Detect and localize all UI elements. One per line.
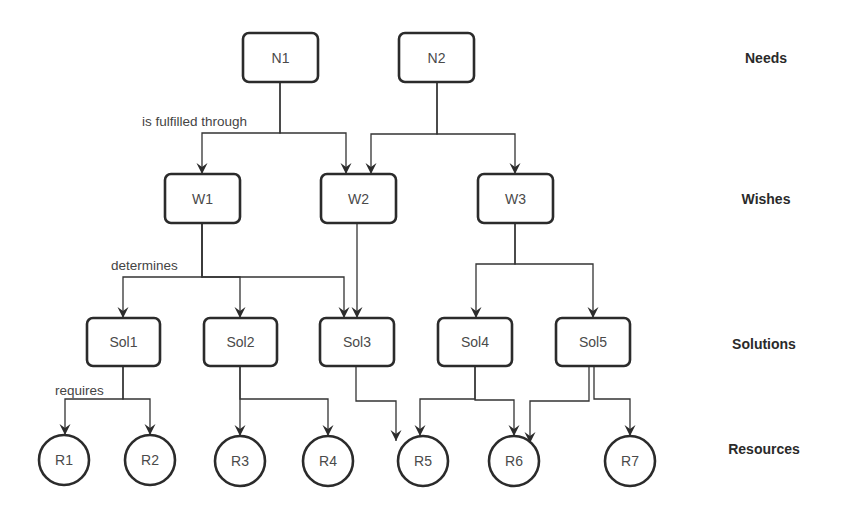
node-label: Sol1 xyxy=(109,334,137,350)
node-label: R7 xyxy=(621,453,639,469)
node-label: Sol2 xyxy=(226,334,254,350)
node-label: Sol5 xyxy=(579,334,607,350)
node-label: R5 xyxy=(414,453,432,469)
edge-Sol1-to-R2 xyxy=(123,366,156,435)
edge-W2-to-Sol3 xyxy=(352,223,363,318)
node-r4[interactable]: R4 xyxy=(303,436,353,486)
node-sol1[interactable]: Sol1 xyxy=(87,318,160,366)
node-sol4[interactable]: Sol4 xyxy=(438,318,512,366)
node-label: R2 xyxy=(141,452,159,468)
node-r3[interactable]: R3 xyxy=(215,436,265,486)
node-w2[interactable]: W2 xyxy=(321,174,396,223)
node-r2[interactable]: R2 xyxy=(125,435,175,485)
edge-W1-to-Sol3 xyxy=(202,223,350,318)
node-w1[interactable]: W1 xyxy=(165,174,240,223)
edge-label: requires xyxy=(55,383,104,398)
edge-Sol4-to-R6 xyxy=(475,366,520,436)
node-label: N2 xyxy=(428,50,446,66)
edge-W1-to-Sol2 xyxy=(202,223,246,318)
edge-Sol5-to-R6 xyxy=(525,366,590,443)
edge-Sol5-to-R7 xyxy=(594,366,636,436)
edge-Sol4-to-R5 xyxy=(415,366,476,436)
node-label: R3 xyxy=(231,453,249,469)
node-label: Sol4 xyxy=(461,334,489,350)
node-r5[interactable]: R5 xyxy=(398,436,448,486)
edge-label: determines xyxy=(111,258,178,273)
node-sol3[interactable]: Sol3 xyxy=(320,318,394,366)
edge-N1-to-W2 xyxy=(280,82,352,174)
edge-N2-to-W3 xyxy=(437,82,521,174)
node-label: W3 xyxy=(505,191,526,207)
node-sol5[interactable]: Sol5 xyxy=(556,318,630,366)
node-r1[interactable]: R1 xyxy=(39,435,89,485)
node-w3[interactable]: W3 xyxy=(478,174,553,223)
edge-W3-to-Sol5 xyxy=(515,223,599,318)
edge-N2-to-W2 xyxy=(366,82,438,174)
node-label: Sol3 xyxy=(343,334,371,350)
edge-label: is fulfilled through xyxy=(142,114,247,129)
needs-wishes-solutions-resources-diagram: is fulfilled throughdeterminesrequires N… xyxy=(0,0,842,521)
level-label-wishes: Wishes xyxy=(742,191,791,207)
node-n2[interactable]: N2 xyxy=(399,33,474,82)
node-label: W1 xyxy=(192,191,213,207)
level-labels-layer: NeedsWishesSolutionsResources xyxy=(728,50,800,457)
edge-W3-to-Sol4 xyxy=(471,223,516,318)
level-label-needs: Needs xyxy=(745,50,787,66)
node-label: N1 xyxy=(272,50,290,66)
level-label-resources: Resources xyxy=(728,441,800,457)
node-label: R6 xyxy=(505,453,523,469)
node-label: R4 xyxy=(319,453,337,469)
level-label-solutions: Solutions xyxy=(732,336,796,352)
edge-Sol1-to-R1 xyxy=(60,366,124,435)
node-r7[interactable]: R7 xyxy=(605,436,655,486)
edge-Sol2-to-R4 xyxy=(240,366,334,436)
node-sol2[interactable]: Sol2 xyxy=(204,318,277,366)
node-label: R1 xyxy=(55,452,73,468)
edge-Sol3-to-R5 xyxy=(356,366,402,441)
node-r6[interactable]: R6 xyxy=(489,436,539,486)
node-label: W2 xyxy=(348,191,369,207)
node-n1[interactable]: N1 xyxy=(243,33,318,82)
